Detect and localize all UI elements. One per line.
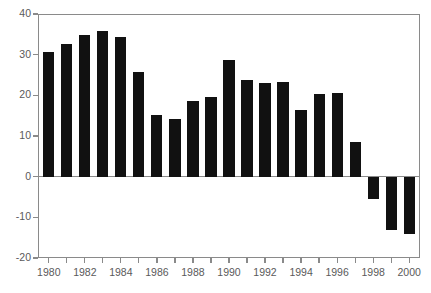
x-tick-1985: [138, 258, 139, 263]
x-tick-1990: [228, 258, 229, 263]
y-tick-label-40: 40: [0, 7, 31, 19]
y-tick-label-20: 20: [0, 88, 31, 100]
x-tick-label-1982: 1982: [73, 266, 96, 278]
bar-1987: [169, 119, 180, 177]
bar-1997: [350, 142, 361, 177]
bar-1982: [79, 35, 90, 177]
x-tick-1984: [120, 258, 121, 263]
y-tick-label-0: 0: [0, 170, 31, 182]
bar-1989: [205, 97, 216, 177]
x-tick-2000: [409, 258, 410, 263]
x-tick-1999: [391, 258, 392, 263]
x-tick-label-1994: 1994: [289, 266, 312, 278]
bar-2000: [404, 177, 415, 235]
bar-1988: [187, 101, 198, 176]
x-tick-1983: [102, 258, 103, 263]
x-tick-label-1984: 1984: [109, 266, 132, 278]
x-tick-label-1992: 1992: [253, 266, 276, 278]
x-tick-1996: [337, 258, 338, 263]
x-tick-label-1986: 1986: [145, 266, 168, 278]
bar-1996: [332, 93, 343, 177]
bar-1990: [223, 60, 234, 176]
x-tick-1992: [264, 258, 265, 263]
x-tick-label-1996: 1996: [325, 266, 348, 278]
x-tick-1994: [300, 258, 301, 263]
plot-area: [38, 14, 420, 258]
y-tick-label-30: 30: [0, 48, 31, 60]
x-tick-1998: [373, 258, 374, 263]
x-tick-label-1980: 1980: [37, 266, 60, 278]
x-tick-1988: [192, 258, 193, 263]
bar-1981: [61, 44, 72, 177]
x-tick-1980: [48, 258, 49, 263]
x-tick-1981: [66, 258, 67, 263]
bar-1992: [259, 83, 270, 177]
bar-1994: [295, 110, 306, 176]
x-tick-label-1998: 1998: [361, 266, 384, 278]
x-tick-1982: [84, 258, 85, 263]
x-tick-1991: [246, 258, 247, 263]
x-tick-label-1990: 1990: [217, 266, 240, 278]
bar-1995: [314, 94, 325, 177]
bar-1985: [133, 72, 144, 177]
x-tick-label-2000: 2000: [398, 266, 421, 278]
bar-1984: [115, 37, 126, 176]
bar-1991: [241, 80, 252, 176]
x-tick-1995: [318, 258, 319, 263]
bar-1980: [43, 52, 54, 177]
bar-1998: [368, 177, 379, 199]
x-tick-1987: [174, 258, 175, 263]
x-tick-1986: [156, 258, 157, 263]
y-tick-label--20: -20: [0, 251, 31, 263]
bar-1993: [277, 82, 288, 177]
x-tick-1997: [355, 258, 356, 263]
y-tick-label--10: -10: [0, 210, 31, 222]
y-tick-label-10: 10: [0, 129, 31, 141]
bar-chart: 403020100-10-20 198019821984198619881990…: [0, 0, 431, 293]
bar-1999: [386, 177, 397, 231]
bar-1983: [97, 31, 108, 176]
x-tick-label-1988: 1988: [181, 266, 204, 278]
bar-1986: [151, 115, 162, 177]
x-tick-1989: [210, 258, 211, 263]
x-tick-1993: [282, 258, 283, 263]
